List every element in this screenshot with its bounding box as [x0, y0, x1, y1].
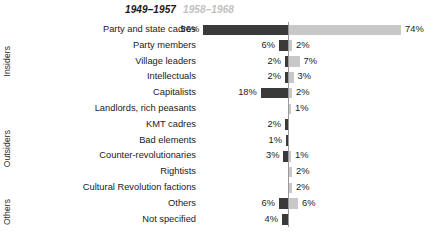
chart-legend: 1949–1957 1958–1968: [0, 4, 445, 20]
category-label: Capitalists: [18, 85, 196, 101]
bar-value-label-right: 7%: [304, 54, 317, 70]
chart-row: Cultural Revolution factions2%: [0, 180, 445, 196]
category-label: Intellectuals: [18, 69, 196, 85]
bar-right-1958-1968: [289, 56, 300, 67]
bar-value-label-left: 1%: [269, 133, 282, 149]
chart-rows: Party and state cadres56%74%Party member…: [0, 22, 445, 227]
bar-value-label-right: 74%: [405, 22, 424, 38]
category-label: Party members: [18, 38, 196, 54]
chart-row: Party members6%2%: [0, 38, 445, 54]
bar-left-1949-1957: [283, 151, 288, 162]
bar-value-label-left: 18%: [238, 85, 257, 101]
chart-row: Landlords, rich peasants1%: [0, 101, 445, 117]
bar-value-label-right: 2%: [296, 180, 309, 196]
bar-value-label-right: 2%: [296, 38, 309, 54]
bar-left-1949-1957: [279, 198, 288, 209]
bar-value-label-right: 2%: [296, 164, 309, 180]
diverging-bar-chart: 1949–1957 1958–1968 InsidersOutsidersOth…: [0, 0, 445, 244]
bar-value-label-left: 6%: [261, 38, 274, 54]
chart-row: Village leaders2%7%: [0, 54, 445, 70]
bar-left-1949-1957: [285, 119, 288, 130]
category-label: Counter-revolutionaries: [18, 148, 196, 164]
chart-row: Others6%6%: [0, 196, 445, 212]
bar-value-label-left: 2%: [268, 117, 281, 133]
bar-right-1958-1968: [289, 198, 298, 209]
chart-row: Counter-revolutionaries3%1%: [0, 148, 445, 164]
bar-left-1949-1957: [286, 135, 288, 146]
bar-value-label-right: 1%: [295, 101, 308, 117]
bar-right-1958-1968: [289, 151, 291, 162]
category-label: KMT cadres: [18, 117, 196, 133]
bar-value-label-right: 3%: [298, 69, 311, 85]
bar-left-1949-1957: [261, 88, 288, 99]
bar-value-label-left: 2%: [268, 54, 281, 70]
bar-value-label-left: 3%: [266, 148, 279, 164]
legend-label-period-1949-1957: 1949–1957: [125, 4, 176, 15]
chart-row: Not specified4%: [0, 212, 445, 228]
bar-right-1958-1968: [289, 104, 291, 115]
bar-right-1958-1968: [289, 25, 401, 36]
bar-value-label-right: 6%: [302, 196, 315, 212]
legend-label-period-1958-1968: 1958–1968: [183, 4, 234, 15]
chart-row: Capitalists18%2%: [0, 85, 445, 101]
bar-left-1949-1957: [282, 214, 288, 225]
category-label: Landlords, rich peasants: [18, 101, 196, 117]
bar-right-1958-1968: [289, 72, 294, 83]
bar-right-1958-1968: [289, 88, 292, 99]
category-label: Cultural Revolution factions: [18, 180, 196, 196]
bar-left-1949-1957: [203, 25, 288, 36]
category-label: Rightists: [18, 164, 196, 180]
bar-value-label-left: 56%: [181, 22, 200, 38]
bar-value-label-left: 2%: [268, 69, 281, 85]
bar-value-label-right: 1%: [295, 148, 308, 164]
bar-value-label-right: 2%: [296, 85, 309, 101]
bar-left-1949-1957: [285, 56, 288, 67]
chart-row: KMT cadres2%: [0, 117, 445, 133]
chart-row: Party and state cadres56%74%: [0, 22, 445, 38]
bar-left-1949-1957: [285, 72, 288, 83]
category-label: Not specified: [18, 212, 196, 228]
bar-right-1958-1968: [289, 183, 292, 194]
category-label: Others: [18, 196, 196, 212]
bar-right-1958-1968: [289, 167, 292, 178]
bar-right-1958-1968: [289, 40, 292, 51]
chart-row: Bad elements1%: [0, 133, 445, 149]
bar-value-label-left: 6%: [261, 196, 274, 212]
chart-row: Intellectuals2%3%: [0, 69, 445, 85]
category-label: Village leaders: [18, 54, 196, 70]
category-label: Bad elements: [18, 133, 196, 149]
bar-value-label-left: 4%: [265, 212, 278, 228]
bar-left-1949-1957: [279, 40, 288, 51]
chart-row: Rightists2%: [0, 164, 445, 180]
category-label: Party and state cadres: [18, 22, 196, 38]
